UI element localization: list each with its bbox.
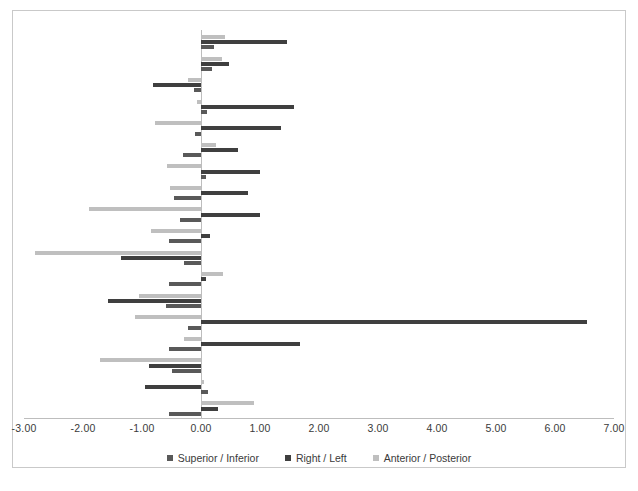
bar (201, 57, 222, 61)
x-tick-label: 3.00 (367, 422, 388, 434)
bar (174, 196, 201, 200)
x-tick-label: 7.00 (603, 422, 624, 434)
x-tick-label: 4.00 (426, 422, 447, 434)
legend-label: Right / Left (296, 452, 347, 464)
x-tick-label: 6.00 (544, 422, 565, 434)
bar (201, 170, 260, 174)
bar (201, 45, 214, 49)
bar (188, 78, 201, 82)
bar (184, 337, 201, 341)
bar (201, 110, 207, 114)
legend-item[interactable]: Superior / Inferior (167, 452, 259, 464)
bar (201, 320, 587, 324)
bar (169, 347, 201, 351)
bar (201, 191, 248, 195)
bar (167, 164, 201, 168)
bar (183, 153, 201, 157)
bar (201, 213, 260, 217)
x-tick-label: -2.00 (71, 422, 96, 434)
chart-legend: Superior / InferiorRight / LeftAnterior … (0, 452, 638, 464)
x-tick-label: 0.00 (190, 422, 211, 434)
bar (180, 218, 201, 222)
legend-swatch-icon (373, 455, 379, 461)
bar (151, 229, 201, 233)
bar (145, 385, 201, 389)
bar (169, 239, 201, 243)
bar (169, 412, 201, 416)
bar (135, 315, 201, 319)
bar (201, 272, 223, 276)
bar (201, 401, 254, 405)
legend-item[interactable]: Right / Left (285, 452, 347, 464)
bar (201, 390, 208, 394)
bar (201, 175, 206, 179)
chart-figure: -3.00-2.00-1.000.001.002.003.004.005.006… (0, 0, 638, 491)
bar (201, 105, 294, 109)
bar (197, 100, 201, 104)
bar (149, 364, 201, 368)
x-tick-label: -3.00 (12, 422, 37, 434)
bar (89, 207, 201, 211)
bar (194, 88, 201, 92)
bar (201, 342, 300, 346)
bar (169, 282, 201, 286)
x-tick-label: 2.00 (308, 422, 329, 434)
bar (201, 148, 238, 152)
bar (201, 126, 281, 130)
bar (188, 326, 201, 330)
legend-label: Anterior / Posterior (384, 452, 472, 464)
bars-layer (24, 30, 614, 418)
bar (201, 380, 204, 384)
bar (121, 256, 201, 260)
x-tick-label: 5.00 (485, 422, 506, 434)
bar (35, 251, 201, 255)
x-tick-label: 1.00 (249, 422, 270, 434)
bar (195, 132, 201, 136)
bar (108, 299, 201, 303)
bar (155, 121, 201, 125)
value-axis-line (24, 418, 614, 419)
legend-swatch-icon (285, 455, 291, 461)
legend-label: Superior / Inferior (178, 452, 259, 464)
x-axis-tick-labels: -3.00-2.00-1.000.001.002.003.004.005.006… (24, 422, 614, 440)
bar (139, 294, 201, 298)
bar (100, 358, 201, 362)
bar (184, 261, 201, 265)
bar (201, 67, 212, 71)
bar (201, 62, 229, 66)
bar (170, 186, 201, 190)
bar (172, 369, 202, 373)
bar (166, 304, 201, 308)
bar (201, 40, 287, 44)
x-tick-label: -1.00 (130, 422, 155, 434)
bar (201, 234, 210, 238)
bar (153, 83, 201, 87)
plot-area (24, 30, 614, 418)
bar (201, 277, 206, 281)
bar (201, 35, 225, 39)
bar (201, 143, 216, 147)
legend-swatch-icon (167, 455, 173, 461)
legend-item[interactable]: Anterior / Posterior (373, 452, 472, 464)
bar (201, 407, 218, 411)
